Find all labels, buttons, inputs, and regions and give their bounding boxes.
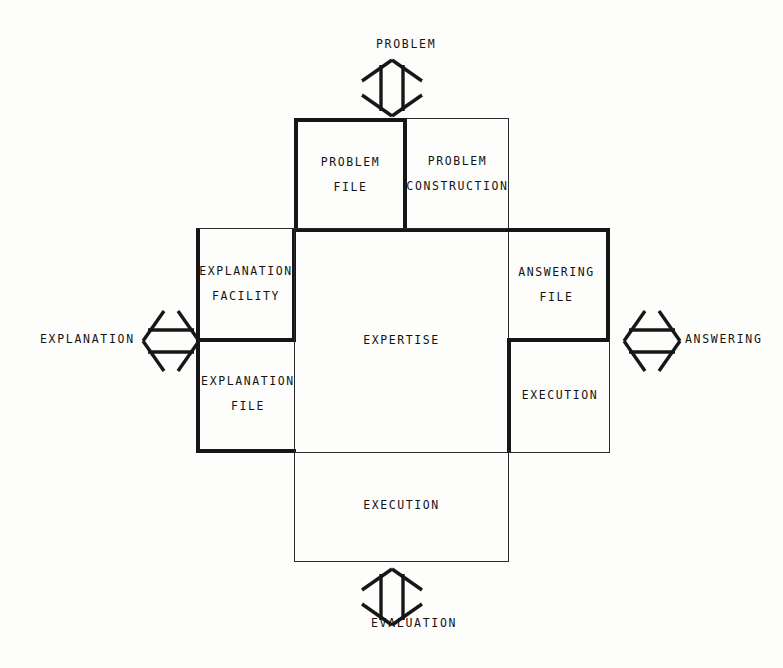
block-answering-file[interactable]: ANSWERING FILE [507,228,610,342]
block-problem-construction[interactable]: PROBLEM CONSTRUCTION [407,118,509,232]
block-explanation-file[interactable]: EXPLANATION FILE [196,339,296,453]
external-label-answering: ANSWERING [685,332,763,346]
block-label-line2: FILE [539,285,573,310]
double-arrow-horizontal-icon [621,307,683,375]
block-label-line1: EXPERTISE [363,328,440,353]
block-label-line1: EXECUTION [363,493,440,518]
double-arrow-horizontal-icon [140,307,202,375]
block-label-line1: PROBLEM [321,150,381,175]
block-label-line2: FACILITY [212,284,280,309]
block-problem-file[interactable]: PROBLEM FILE [294,118,407,232]
block-label-line2: FILE [333,175,367,200]
external-label-evaluation: EVALUATION [371,616,457,630]
block-label-line2: FILE [231,394,265,419]
block-execution-bottom[interactable]: EXECUTION [294,450,509,562]
block-label-line1: EXPLANATION [199,259,293,284]
external-label-problem: PROBLEM [376,37,436,51]
block-label-line2: CONSTRUCTION [406,174,508,199]
block-label-line1: EXECUTION [522,383,599,408]
external-label-explanation: EXPLANATION [40,332,135,346]
block-expertise[interactable]: EXPERTISE [294,228,509,453]
block-label-line1: EXPLANATION [201,369,295,394]
block-execution-right[interactable]: EXECUTION [507,339,610,453]
block-explanation-facility[interactable]: EXPLANATION FACILITY [196,228,296,342]
diagram-canvas: PROBLEM EXPLANATION ANSWERIN [0,0,783,668]
double-arrow-vertical-icon [358,57,426,119]
block-label-line1: ANSWERING [518,260,595,285]
block-label-line1: PROBLEM [428,149,488,174]
